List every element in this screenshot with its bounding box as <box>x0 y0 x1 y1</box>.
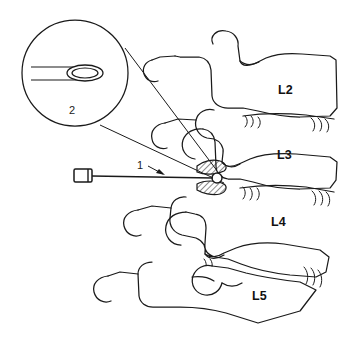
l5-lamina-line <box>108 272 138 276</box>
l2-body-outline <box>175 31 337 117</box>
vertebra-l2-group <box>152 31 337 117</box>
lumbar-spine-diagram: 1 2 L2 L3 L4 L5 <box>0 0 349 358</box>
disc2-marking-a <box>243 187 245 199</box>
callout-1-pointer <box>148 166 165 175</box>
l5-spinous-tip <box>94 276 111 302</box>
disc-marking-c <box>258 117 260 128</box>
disc-marking-d <box>311 118 315 131</box>
l3-spinous-tip <box>152 123 167 149</box>
callout-label-1: 1 <box>137 159 143 171</box>
disc2-marking-c <box>257 188 259 200</box>
callout-1-arrow-head <box>156 169 165 175</box>
needle-shaft <box>92 176 213 178</box>
disc-marking-e <box>318 118 322 131</box>
superior-facet-surface <box>197 160 226 174</box>
vertebra-label-l4: L4 <box>271 215 286 229</box>
l4-spinous-tip <box>124 210 141 236</box>
inset-bevel-opening-inner <box>72 68 98 78</box>
needle-tip-marker <box>212 173 222 183</box>
diagram-canvas: 1 2 L2 L3 L4 L5 <box>0 0 349 358</box>
disc2-marking-e <box>319 191 323 205</box>
disc-marking-a <box>245 116 247 127</box>
disc-marking-b <box>251 116 253 127</box>
l2-transverse-process <box>152 56 175 60</box>
l2-spinous-tip <box>143 60 158 82</box>
inferior-facet-surface <box>197 181 226 195</box>
l4-lamina-line <box>138 206 171 210</box>
disc2-marking-f <box>326 192 330 206</box>
vertebra-label-l5: L5 <box>252 289 267 303</box>
vertebra-label-l3: L3 <box>277 148 292 162</box>
injection-needle <box>74 169 213 182</box>
needle-hub <box>74 169 92 182</box>
disc2-marking-b <box>250 188 252 200</box>
disc-marking-f <box>325 119 329 132</box>
disc2-marking-d <box>312 191 316 205</box>
vertebra-label-l2: L2 <box>278 83 293 97</box>
callout-label-2: 2 <box>69 104 75 116</box>
